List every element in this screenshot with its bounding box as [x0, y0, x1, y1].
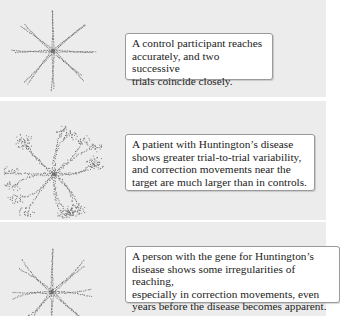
trajectory-up-left-trial-1	[16, 134, 55, 174]
trajectory-up-left-trial-1	[20, 26, 54, 51]
trajectory-up-trial-1	[54, 131, 78, 175]
trajectory-down-right-trial-2	[52, 290, 86, 316]
reaching-trajectory-figure-gene-carrier	[0, 222, 110, 316]
trajectory-down-left-trial-1	[19, 174, 54, 217]
caption-huntingtons: A patient with Huntington’s disease show…	[125, 134, 315, 191]
reaching-trajectory-figure-huntingtons	[0, 101, 110, 220]
trajectory-up-trial-2	[52, 126, 71, 174]
trajectory-up-left-trial-2	[16, 140, 55, 175]
trajectory-up-right-trial-2	[52, 135, 90, 174]
trajectory-up-right-trial-1	[52, 266, 85, 294]
trajectory-down-left-trial-2	[21, 293, 53, 316]
trajectory-down-left-trial-1	[29, 290, 52, 316]
trajectory-up-right-trial-1	[53, 24, 85, 52]
trajectory-up-left-trial-2	[24, 24, 52, 53]
trajectory-up-trial-2	[51, 11, 54, 52]
trajectory-up-left-trial-1	[19, 268, 53, 291]
start-point	[51, 49, 54, 52]
trajectory-right-trial-1	[53, 162, 103, 177]
caption-gene-carrier: A person with the gene for Huntington’s …	[125, 246, 340, 303]
start-point	[50, 290, 53, 293]
trajectory-up-right-trial-2	[52, 25, 86, 51]
trajectory-down-trial-2	[54, 174, 78, 217]
trajectory-down-left-trial-2	[24, 51, 54, 82]
trajectory-down-right-trial-1	[53, 174, 85, 214]
panel-huntingtons: A patient with Huntington’s disease show…	[0, 101, 326, 220]
trajectory-down-right-trial-1	[51, 292, 84, 316]
trajectory-up-right-trial-2	[51, 260, 85, 291]
trajectory-up-left-trial-2	[22, 259, 52, 293]
caption-control: A control participant reaches accurately…	[125, 33, 273, 80]
start-point	[52, 172, 55, 175]
panel-control: A control participant reaches accurately…	[0, 0, 326, 97]
trajectory-right-trial-2	[53, 49, 93, 53]
reaching-trajectory-figure-control	[0, 0, 110, 97]
panel-gene-carrier: A person with the gene for Huntington’s …	[0, 222, 326, 316]
